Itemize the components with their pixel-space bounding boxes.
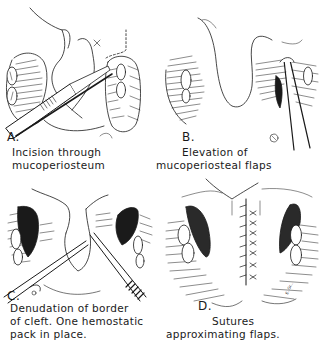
panel-a-letter: A. <box>7 130 20 144</box>
panel-b: B. Elevation of mucoperiosteal flaps <box>162 0 324 175</box>
panel-b-caption-line-2: mucoperiosteal flaps <box>156 159 272 171</box>
panel-a: A. Incision through mucoperiosteum <box>0 0 162 175</box>
panel-a-caption-line-1: Incision through <box>12 146 101 158</box>
panel-c-letter: C. <box>7 289 20 303</box>
panel-c-caption-line-3: pack in place. <box>10 328 87 340</box>
panel-c-caption-line-2: of cleft. One hemostatic <box>10 315 143 327</box>
panel-d-letter: D. <box>198 299 212 313</box>
panel-c-caption-line-1: Denudation of border <box>10 302 129 314</box>
panel-c: C. Denudation of border of cleft. One he… <box>0 175 162 351</box>
panel-a-caption-line-2: mucoperiosteum <box>12 159 105 171</box>
panel-b-caption-line-1: Elevation of <box>182 146 248 158</box>
panel-d-caption-line-2: approximating flaps. <box>166 328 280 340</box>
panel-d-caption-line-1: Sutures <box>212 315 254 327</box>
panel-d: E. Gr... D. Sutures approximating flaps. <box>162 175 324 351</box>
panel-b-letter: B. <box>182 130 195 144</box>
